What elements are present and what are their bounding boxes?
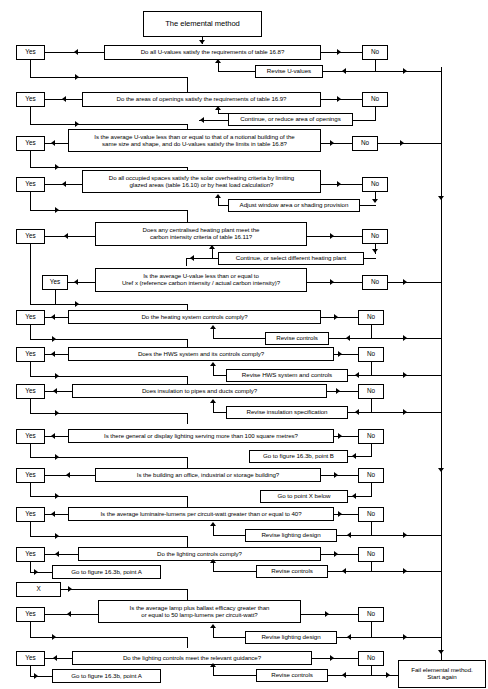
yes-drop-10: [30, 444, 31, 457]
no-drop-2: [375, 107, 376, 120]
yes-box-lighting-controls: Yes: [16, 547, 45, 562]
yes-run-5: [30, 304, 187, 305]
yes-run-drop-12: [187, 536, 188, 547]
no-box-u-values: No: [362, 45, 388, 60]
link-q-to-yes-7: [45, 317, 68, 318]
action-return-4: [218, 205, 228, 206]
x-run: [61, 589, 187, 590]
question-box-lighting-controls: Do the lighting controls comply?: [78, 547, 321, 561]
arrow-left-4-icon: [62, 181, 66, 187]
arrow-yes-run-11-icon: [55, 493, 59, 499]
no-feed-4: [360, 205, 376, 206]
question-box-heating-plant: Does any centralised heating plant meet …: [95, 222, 307, 246]
arrow-no-rail-3-icon: [400, 140, 404, 146]
question-box-areas-openings: Do the areas of openings satisfy the req…: [82, 92, 321, 107]
arrow-right-14-icon: [325, 611, 329, 617]
link-q-to-yes-13: [45, 554, 78, 555]
arrow-up-4-icon: [215, 194, 221, 198]
yes-run-drop-14: [187, 637, 188, 648]
arrow-no-feed-13-icon: [342, 568, 346, 574]
no-box-heating-controls: No: [358, 310, 384, 325]
no-feed-14: [337, 637, 441, 638]
question-box-uref: Is the average U-value less than or equa…: [95, 268, 307, 292]
action-return-up-1: [218, 62, 219, 71]
no-box-areas-openings: No: [362, 92, 388, 107]
no-box-luminaire-lumens: No: [358, 507, 384, 522]
yes-run-drop-11: [187, 496, 188, 507]
arrow-yes-run-9-icon: [55, 410, 59, 416]
yes-box-lighting-guidance: Yes: [16, 651, 45, 666]
flowchart-canvas: The elemental method Yes Do all U-values…: [0, 0, 488, 689]
arrow-action-feed-5-icon: [190, 255, 194, 261]
link-q-to-no-14: [301, 614, 358, 615]
action-box-adjust-window: Adjust window area or shading provision: [228, 199, 360, 212]
link-q-to-yes-6: [68, 282, 95, 283]
arrow-left-8-icon: [51, 351, 55, 357]
arrow-yes-run-7-icon: [52, 336, 56, 342]
yes-box-luminaire-lumens: Yes: [16, 507, 45, 522]
no-box-building-type: No: [358, 468, 384, 483]
arrow-yes-run-1-icon: [75, 74, 79, 80]
no-drop-7: [371, 325, 372, 338]
action-return-up-5: [212, 248, 213, 258]
question-box-lamp-ballast: Is the average lamp plus ballast efficac…: [98, 600, 301, 623]
yes-drop-9: [30, 399, 31, 413]
arrow-left-13-icon: [55, 551, 59, 557]
action-box-revise-lighting-design-14: Revise lighting design: [245, 631, 337, 644]
action-return-7: [213, 338, 265, 339]
arrow-right-6-icon: [330, 279, 334, 285]
action-box-revise-controls-15: Revise controls: [256, 669, 328, 682]
yes-box-hws: Yes: [16, 347, 45, 362]
no-box-lighting-guidance: No: [358, 651, 384, 666]
arrow-yes-run-15-icon: [34, 673, 38, 679]
arrow-right-13-icon: [334, 551, 338, 557]
no-drop-9: [371, 399, 372, 412]
action-return-13: [213, 571, 256, 572]
action-return-up-9: [213, 402, 214, 413]
no-box-uref: No: [362, 275, 388, 290]
yes-box-average-u-value: Yes: [16, 136, 45, 151]
link-q-to-no-3: [321, 143, 352, 144]
arrow-yes-run-2-icon: [75, 121, 79, 127]
yes-drop-13: [30, 562, 31, 572]
yes-run-drop-10: [187, 457, 188, 468]
action-return-8: [213, 375, 226, 376]
no-drop-14: [371, 622, 372, 637]
action-box-continue-reduce-openings: Continue, or reduce area of openings: [228, 113, 353, 126]
yes-box-areas-openings: Yes: [16, 92, 45, 107]
arrow-up-14-icon: [210, 624, 216, 628]
arrow-no-rail-6-icon: [403, 279, 407, 285]
arrow-left-12-icon: [51, 511, 55, 517]
question-box-lighting-guidance: Do the lighting controls meet the releva…: [72, 651, 312, 665]
link-q-to-no-15: [312, 658, 358, 659]
arrow-left-9-icon: [53, 388, 57, 394]
action-return-up-12: [213, 525, 214, 536]
yes-run-12: [30, 536, 187, 537]
link-q-to-no-1: [321, 52, 362, 53]
yes-run-1: [30, 77, 187, 78]
yes-box-solar-overheating: Yes: [16, 177, 45, 192]
right-rail: [441, 67, 442, 663]
goto-box-fig-16-3b-point-a-15: Go to figure 16.3b, point A: [52, 669, 161, 683]
arrow-rail-13-icon: [403, 568, 407, 574]
action-box-revise-lighting-design-12: Revise lighting design: [245, 529, 337, 542]
arrow-right-12-icon: [338, 511, 342, 517]
question-box-average-u-value: Is the average U-value less than or equa…: [68, 129, 321, 152]
arrow-yes-run-8-icon: [55, 373, 59, 379]
link-q-to-yes-12: [45, 514, 68, 515]
yes-run-11: [30, 496, 187, 497]
action-box-revise-hws: Revise HWS system and controls: [226, 369, 348, 382]
arrow-rail-9-icon: [403, 409, 407, 415]
arrow-rail-14-icon: [403, 634, 407, 640]
yes-box-building-type: Yes: [16, 468, 45, 483]
arrow-x-run-icon: [68, 586, 72, 592]
arrow-right-2-icon: [337, 96, 341, 102]
action-return-up-8: [213, 365, 214, 376]
link-q-to-yes-15: [45, 658, 72, 659]
no-drop-1: [375, 60, 376, 71]
no-drop-8: [371, 362, 372, 375]
arrow-no-feed-10-icon: [352, 453, 356, 459]
question-box-insulation: Does insulation to pipes and ducts compl…: [72, 384, 327, 398]
action-return-up-4: [218, 197, 219, 206]
fail-box: Fail elemental method. Start again: [398, 660, 486, 688]
